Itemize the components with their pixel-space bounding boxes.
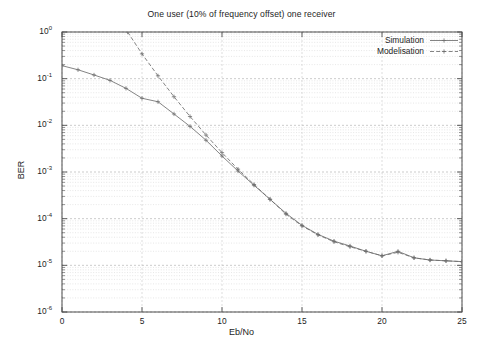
y-tick-label: 10-1 (18, 73, 52, 83)
y-tick-label: 100 (18, 26, 52, 36)
series-simulation (60, 64, 464, 264)
legend-label-simulation: Simulation (338, 35, 424, 45)
grid-lines (62, 32, 462, 312)
x-tick-label: 25 (450, 316, 474, 326)
y-tick-label: 10-5 (18, 259, 52, 269)
legend-label-modelisation: Modelisation (338, 46, 424, 56)
x-tick-label: 15 (290, 316, 314, 326)
x-tick-label: 10 (210, 316, 234, 326)
x-tick-label: 20 (370, 316, 394, 326)
y-tick-label: 10-6 (18, 306, 52, 316)
x-tick-label: 5 (130, 316, 154, 326)
x-axis-label: Eb/No (0, 327, 483, 337)
y-tick-label: 10-4 (18, 213, 52, 223)
figure-canvas: One user (10% of frequency offset) one r… (0, 0, 483, 356)
y-tick-label: 10-3 (18, 166, 52, 176)
y-tick-label: 10-2 (18, 119, 52, 129)
series-modelisation (126, 30, 465, 264)
data-series (60, 30, 464, 264)
x-tick-label: 0 (50, 316, 74, 326)
